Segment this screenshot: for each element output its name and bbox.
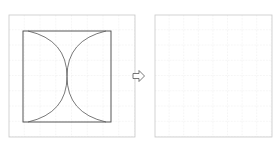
left-grid	[9, 15, 135, 137]
diagram-canvas	[0, 0, 280, 146]
left-grid-panel	[9, 15, 135, 137]
right-grid	[155, 15, 272, 137]
right-grid-panel	[155, 15, 272, 137]
